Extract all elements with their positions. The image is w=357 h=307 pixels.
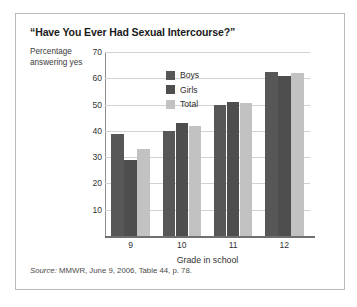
x-axis-line (105, 236, 315, 238)
y-tick-label: 20 (84, 178, 102, 188)
legend-label-total: Total (180, 99, 198, 109)
bar-boys-grade-9 (111, 134, 124, 237)
y-axis-title: Percentage answering yes (30, 47, 90, 68)
chart-title: “Have You Ever Had Sexual Intercourse?” (30, 26, 235, 38)
y-tick-label: 70 (84, 47, 102, 57)
y-tick-label: 40 (84, 126, 102, 136)
bar-girls-grade-10 (176, 123, 189, 236)
legend-label-girls: Girls (180, 85, 198, 95)
y-tick-label: 30 (84, 152, 102, 162)
bar-girls-grade-12 (278, 76, 291, 236)
y-tick-label: 60 (84, 73, 102, 83)
legend-swatch-boys-icon (166, 71, 175, 80)
y-axis-tick-labels: 70605040302010 (82, 52, 102, 236)
legend-item-girls: Girls (166, 85, 199, 95)
bar-girls-grade-9 (124, 160, 137, 236)
bar-group-grade-12 (265, 52, 304, 236)
x-tick-label-grade-12: 12 (280, 240, 290, 250)
x-tick-label-grade-9: 9 (128, 240, 133, 250)
legend-swatch-girls-icon (166, 85, 175, 94)
x-tick-label-grade-11: 11 (229, 240, 238, 250)
legend-label-boys: Boys (180, 70, 199, 80)
bar-girls-grade-11 (227, 102, 240, 236)
bar-boys-grade-12 (265, 72, 278, 236)
source-label: Source: (30, 266, 57, 275)
chart-legend: BoysGirlsTotal (166, 70, 199, 114)
bar-total-grade-9 (137, 149, 150, 236)
plot-area (105, 52, 310, 236)
bar-total-grade-10 (189, 126, 202, 236)
x-axis-title: Grade in school (105, 255, 310, 265)
bar-group-grade-9 (111, 52, 150, 236)
bar-boys-grade-11 (214, 105, 227, 236)
bar-group-grade-11 (214, 52, 253, 236)
figure-frame: “Have You Ever Had Sexual Intercourse?” … (15, 13, 345, 290)
source-citation: MMWR, June 9, 2006, Table 44, p. 78. (57, 266, 192, 275)
source-note: Source: MMWR, June 9, 2006, Table 44, p.… (30, 266, 192, 275)
y-tick-label: 10 (84, 205, 102, 215)
bar-total-grade-12 (291, 73, 304, 236)
legend-swatch-total-icon (166, 100, 175, 109)
x-tick-label-grade-10: 10 (177, 240, 187, 250)
y-tick-label: 50 (84, 100, 102, 110)
bar-total-grade-11 (240, 103, 253, 236)
legend-item-boys: Boys (166, 70, 199, 80)
legend-item-total: Total (166, 99, 199, 109)
bar-boys-grade-10 (163, 131, 176, 236)
